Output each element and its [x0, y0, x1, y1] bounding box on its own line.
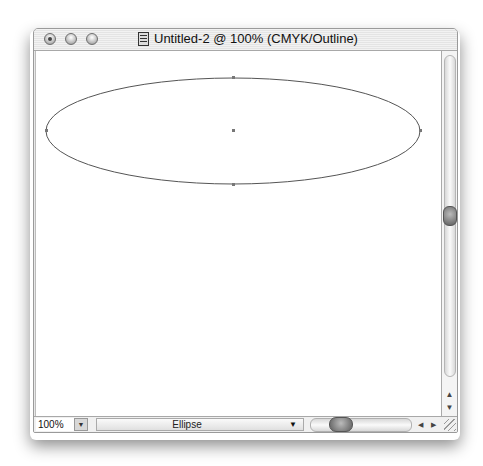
drawing-canvas[interactable]: [35, 51, 441, 416]
center-point[interactable]: [232, 129, 235, 132]
zoom-button[interactable]: [86, 33, 98, 45]
ellipse-shape[interactable]: [36, 51, 441, 416]
horizontal-scroll-track[interactable]: [310, 418, 412, 432]
status-bar: 100% ▼ Ellipse ▼ ◀ ▶: [34, 416, 457, 433]
chevron-down-icon: ▼: [289, 419, 297, 430]
anchor-point[interactable]: [232, 76, 235, 79]
zoom-level-field[interactable]: 100%: [36, 418, 74, 431]
zoom-dropdown-button[interactable]: ▼: [74, 418, 88, 431]
scroll-up-arrow-icon[interactable]: ▲: [442, 389, 457, 401]
minimize-button[interactable]: [65, 33, 77, 45]
document-window: Untitled-2 @ 100% (CMYK/Outline) ▲ ▼ 100…: [33, 28, 458, 433]
vertical-scroll-thumb[interactable]: [443, 206, 457, 226]
anchor-point[interactable]: [232, 183, 235, 186]
scroll-right-arrow-icon[interactable]: ▶: [427, 418, 439, 431]
close-button[interactable]: [44, 33, 56, 45]
resize-grip-icon[interactable]: [444, 419, 456, 431]
tool-status-label: Ellipse: [97, 419, 277, 430]
scroll-down-arrow-icon[interactable]: ▼: [442, 402, 457, 414]
scroll-left-arrow-icon[interactable]: ◀: [414, 418, 426, 431]
title-bar[interactable]: Untitled-2 @ 100% (CMYK/Outline): [34, 29, 457, 51]
anchor-point[interactable]: [45, 129, 48, 132]
anchor-point[interactable]: [419, 129, 422, 132]
horizontal-scroll-thumb[interactable]: [329, 417, 353, 432]
vertical-scrollbar[interactable]: ▲ ▼: [441, 51, 457, 416]
tool-status-dropdown[interactable]: Ellipse ▼: [96, 418, 304, 431]
window-title: Untitled-2 @ 100% (CMYK/Outline): [154, 31, 358, 46]
document-icon[interactable]: [138, 32, 149, 46]
